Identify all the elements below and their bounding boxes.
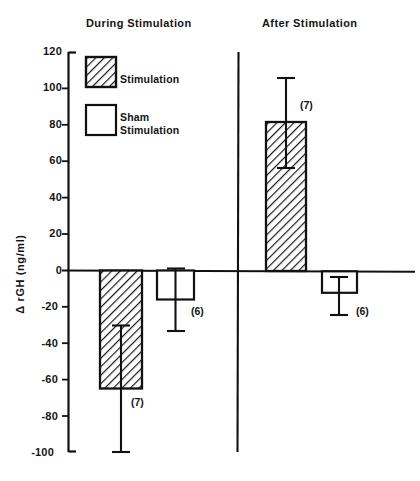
figure-container: During Stimulation After Stimulation Δ r…: [0, 0, 420, 481]
legend-swatch-sham: [86, 105, 116, 135]
plot-svg: [0, 0, 420, 481]
panel-divider: [238, 52, 239, 452]
legend-swatch-stimulation: [86, 57, 116, 87]
